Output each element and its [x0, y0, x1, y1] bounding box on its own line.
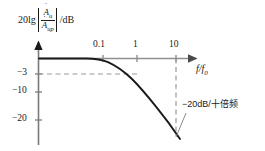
gain-ratio-fraction: Au Aup: [41, 8, 55, 32]
y-tick-label-minus-20: −20: [12, 114, 27, 124]
a-u-subscript: u: [49, 12, 52, 19]
x-axis-label-subscript: 0: [204, 69, 208, 77]
abs-bar-left: [38, 8, 39, 32]
x-axis-label: f/f0: [196, 64, 208, 77]
x-tick-label-1: 1: [133, 40, 138, 50]
a-up-subscript: up: [47, 24, 54, 31]
y-axis-label-magnitude: Au Aup: [37, 8, 59, 32]
y-axis-unit: /dB: [60, 15, 74, 25]
y-tick-label-minus-10: −10: [12, 86, 27, 96]
x-tick-label-10: 10: [169, 40, 179, 50]
y-axis-label-lead: 20lg: [18, 15, 36, 25]
y-tick-label-minus-3: −3: [17, 68, 27, 78]
slope-annotation: −20dB/十倍频: [182, 100, 238, 109]
abs-bar-right: [56, 8, 57, 32]
a-up-symbol: A: [42, 20, 48, 30]
fraction-denominator: Aup: [41, 20, 55, 33]
x-tick-label-0.1: 0.1: [93, 40, 105, 50]
annotation-leader-line: [176, 113, 186, 137]
y-axis-label: 20lg Au Aup /dB: [18, 8, 74, 32]
gain-curve: [39, 59, 180, 140]
bode-plot-figure: 20lg Au Aup /dB 0.1 1 10 −3 −10 −20 f/f0…: [0, 0, 265, 151]
